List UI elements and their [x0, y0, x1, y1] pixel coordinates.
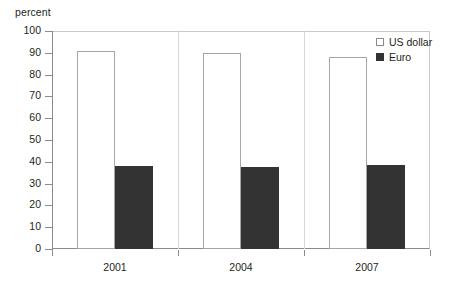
legend-item-label: US dollar	[389, 36, 432, 48]
legend-item-euro: Euro	[376, 51, 432, 63]
y-axis-tick-mark	[45, 96, 52, 97]
legend: US dollarEuro	[376, 36, 432, 63]
y-axis-tick-label: 10	[29, 220, 41, 233]
x-axis-label-2007: 2007	[337, 261, 397, 274]
y-axis-tick-label: 0	[35, 242, 41, 255]
y-axis-tick-mark	[45, 162, 52, 163]
bar-euro-2004	[241, 167, 279, 249]
y-axis-tick-label: 60	[29, 111, 41, 124]
y-axis-tick-mark	[45, 118, 52, 119]
y-axis-tick-label: 70	[29, 89, 41, 102]
y-axis-tick-mark	[45, 53, 52, 54]
y-axis-tick-mark	[45, 227, 52, 228]
y-axis-tick-mark	[45, 140, 52, 141]
y-axis-tick-label: 30	[29, 177, 41, 190]
y-axis-title: percent	[15, 6, 51, 19]
y-axis-tick-label: 20	[29, 198, 41, 211]
y-axis-tick-label: 100	[23, 24, 41, 37]
x-axis-tick-mark	[52, 250, 53, 256]
category-separator-line	[178, 31, 179, 249]
x-axis-tick-mark	[304, 250, 305, 256]
y-axis-spine	[52, 31, 53, 250]
y-axis-tick-mark	[45, 75, 52, 76]
bar-euro-2007	[367, 165, 405, 249]
bar-euro-2001	[115, 166, 153, 249]
bar-us-dollar-2001	[77, 51, 115, 249]
y-axis-tick-label: 50	[29, 133, 41, 146]
y-axis-tick-mark	[45, 31, 52, 32]
x-axis-tick-mark	[178, 250, 179, 256]
legend-item-us-dollar: US dollar	[376, 36, 432, 48]
y-axis-tick-label: 80	[29, 68, 41, 81]
y-axis-tick-mark	[45, 249, 52, 250]
category-separator-line	[304, 31, 305, 249]
x-axis-label-2004: 2004	[211, 261, 271, 274]
y-axis-tick-mark	[45, 205, 52, 206]
bar-us-dollar-2007	[329, 57, 367, 249]
legend-swatch-icon	[376, 38, 384, 46]
y-axis-tick-label: 40	[29, 155, 41, 168]
legend-swatch-icon	[376, 53, 384, 61]
bar-chart: percent 0102030405060708090100 200120042…	[0, 0, 450, 286]
x-axis-label-2001: 2001	[85, 261, 145, 274]
x-axis-tick-mark	[430, 250, 431, 256]
y-axis-tick-label: 90	[29, 46, 41, 59]
bar-us-dollar-2004	[203, 53, 241, 249]
legend-item-label: Euro	[389, 51, 411, 63]
y-axis-tick-mark	[45, 184, 52, 185]
